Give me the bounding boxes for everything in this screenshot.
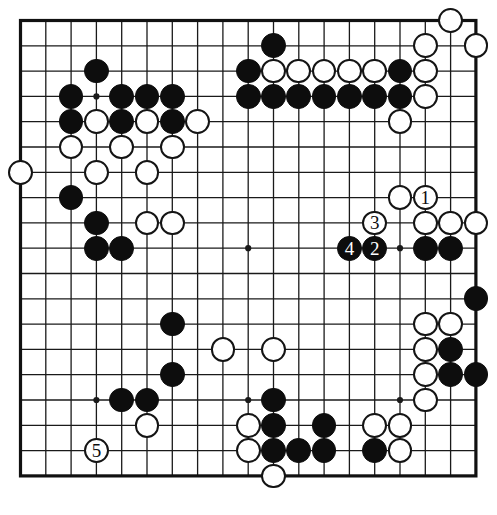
- stone-white[interactable]: [413, 362, 438, 387]
- stone-black[interactable]: [286, 84, 311, 109]
- star-point: [397, 245, 403, 251]
- stone-black[interactable]: [413, 236, 438, 261]
- stone-white[interactable]: [438, 8, 463, 33]
- stone-white[interactable]: [261, 59, 286, 84]
- move-number-label: 3: [370, 213, 380, 232]
- move-stone-5[interactable]: 5: [84, 438, 109, 463]
- move-number-label: 5: [92, 441, 102, 460]
- stone-black[interactable]: [261, 84, 286, 109]
- stone-black[interactable]: [261, 388, 286, 413]
- stone-white[interactable]: [413, 312, 438, 337]
- move-stone-4[interactable]: 4: [337, 236, 362, 261]
- star-point: [245, 245, 251, 251]
- stone-black[interactable]: [160, 84, 185, 109]
- star-point: [245, 397, 251, 403]
- stone-white[interactable]: [337, 59, 362, 84]
- stone-black[interactable]: [84, 211, 109, 236]
- star-point: [93, 397, 99, 403]
- move-stone-1[interactable]: 1: [413, 185, 438, 210]
- stone-black[interactable]: [135, 84, 160, 109]
- stone-white[interactable]: [413, 59, 438, 84]
- stone-black[interactable]: [312, 413, 337, 438]
- stone-black[interactable]: [236, 59, 261, 84]
- go-board-diagram: 34215: [0, 0, 497, 515]
- star-point: [397, 397, 403, 403]
- stone-black[interactable]: [109, 109, 134, 134]
- move-stone-2[interactable]: 2: [362, 236, 387, 261]
- stone-black[interactable]: [160, 362, 185, 387]
- stone-black[interactable]: [160, 312, 185, 337]
- stone-white[interactable]: [236, 413, 261, 438]
- stone-white[interactable]: [388, 438, 413, 463]
- stone-white[interactable]: [413, 388, 438, 413]
- stone-black[interactable]: [160, 109, 185, 134]
- stone-white[interactable]: [211, 337, 236, 362]
- stone-white[interactable]: [413, 337, 438, 362]
- star-point: [93, 93, 99, 99]
- stone-white[interactable]: [261, 464, 286, 489]
- stone-white[interactable]: [135, 413, 160, 438]
- stone-black[interactable]: [261, 438, 286, 463]
- stone-white[interactable]: [388, 413, 413, 438]
- stone-white[interactable]: [160, 211, 185, 236]
- move-number-label: 1: [421, 188, 431, 207]
- stone-white[interactable]: [160, 135, 185, 160]
- stone-black[interactable]: [261, 33, 286, 58]
- stone-white[interactable]: [413, 84, 438, 109]
- stone-white[interactable]: [413, 211, 438, 236]
- stone-black[interactable]: [464, 362, 489, 387]
- stone-white[interactable]: [135, 160, 160, 185]
- stone-black[interactable]: [84, 59, 109, 84]
- stone-white[interactable]: [84, 109, 109, 134]
- stone-white[interactable]: [84, 160, 109, 185]
- stone-black[interactable]: [438, 362, 463, 387]
- stone-black[interactable]: [109, 236, 134, 261]
- stone-white[interactable]: [413, 33, 438, 58]
- move-number-label: 4: [345, 239, 355, 258]
- stone-black[interactable]: [59, 84, 84, 109]
- stone-black[interactable]: [438, 337, 463, 362]
- stone-black[interactable]: [286, 438, 311, 463]
- stone-black[interactable]: [438, 236, 463, 261]
- stone-black[interactable]: [236, 84, 261, 109]
- stone-black[interactable]: [362, 438, 387, 463]
- stone-black[interactable]: [84, 236, 109, 261]
- stone-black[interactable]: [312, 84, 337, 109]
- stone-white[interactable]: [236, 438, 261, 463]
- move-stone-3[interactable]: 3: [362, 211, 387, 236]
- stone-white[interactable]: [8, 160, 33, 185]
- stone-white[interactable]: [388, 185, 413, 210]
- stone-white[interactable]: [261, 337, 286, 362]
- stone-black[interactable]: [337, 84, 362, 109]
- stone-white[interactable]: [438, 211, 463, 236]
- stone-black[interactable]: [261, 413, 286, 438]
- move-number-label: 2: [370, 239, 380, 258]
- stone-black[interactable]: [362, 84, 387, 109]
- stone-white[interactable]: [362, 413, 387, 438]
- stone-black[interactable]: [388, 84, 413, 109]
- stone-black[interactable]: [109, 84, 134, 109]
- stone-white[interactable]: [185, 109, 210, 134]
